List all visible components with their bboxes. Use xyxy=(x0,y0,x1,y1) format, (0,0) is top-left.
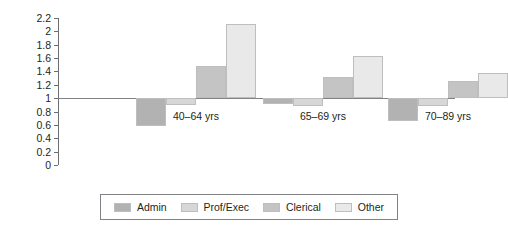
y-tick-label: 1.2 xyxy=(36,80,51,91)
y-tick-label: 2.2 xyxy=(36,13,51,24)
bar xyxy=(196,66,226,98)
y-tick-mark xyxy=(54,152,58,153)
y-tick-label: 0 xyxy=(45,160,51,171)
bar xyxy=(323,77,353,98)
bar xyxy=(418,98,448,106)
legend-swatch xyxy=(263,203,280,212)
y-tick-label: 0.8 xyxy=(36,106,51,117)
bar xyxy=(293,98,323,105)
plot-area: 00.20.40.60.811.21.41.61.822.2 xyxy=(58,18,455,165)
y-tick-mark xyxy=(54,85,58,86)
legend-label: Admin xyxy=(137,202,167,213)
y-tick-label: 0.4 xyxy=(36,133,51,144)
bar xyxy=(448,81,478,98)
y-tick-mark xyxy=(54,138,58,139)
y-tick-label: 2 xyxy=(45,26,51,37)
chart-legend: AdminProf/ExecClericalOther xyxy=(100,194,398,220)
y-tick-label: 0.6 xyxy=(36,120,51,131)
group-label: 65–69 yrs xyxy=(287,111,359,122)
bar xyxy=(478,73,508,98)
y-tick-mark xyxy=(54,71,58,72)
y-tick-mark xyxy=(54,18,58,19)
legend-swatch xyxy=(335,203,352,212)
legend-swatch xyxy=(181,203,198,212)
y-tick-mark xyxy=(54,45,58,46)
y-tick-mark xyxy=(54,31,58,32)
legend-label: Clerical xyxy=(286,202,321,213)
y-tick-label: 1.4 xyxy=(36,66,51,77)
y-axis-spine xyxy=(58,18,59,165)
y-tick-label: 1 xyxy=(45,93,51,104)
y-tick-label: 1.8 xyxy=(36,39,51,50)
legend-item: Other xyxy=(335,202,384,213)
y-tick-label: 0.2 xyxy=(36,146,51,157)
legend-label: Other xyxy=(358,202,384,213)
legend-item: Clerical xyxy=(263,202,321,213)
legend-swatch xyxy=(114,203,131,212)
bar xyxy=(353,56,383,98)
group-label: 70–89 yrs xyxy=(412,111,484,122)
bar xyxy=(263,98,293,104)
legend-label: Prof/Exec xyxy=(204,202,250,213)
legend-item: Admin xyxy=(114,202,167,213)
y-tick-mark xyxy=(54,165,58,166)
bar xyxy=(166,98,196,105)
y-tick-mark xyxy=(54,125,58,126)
legend-item: Prof/Exec xyxy=(181,202,250,213)
group-label: 40–64 yrs xyxy=(160,111,232,122)
y-tick-mark xyxy=(54,112,58,113)
y-tick-mark xyxy=(54,58,58,59)
y-tick-label: 1.6 xyxy=(36,53,51,64)
bar xyxy=(226,24,256,98)
